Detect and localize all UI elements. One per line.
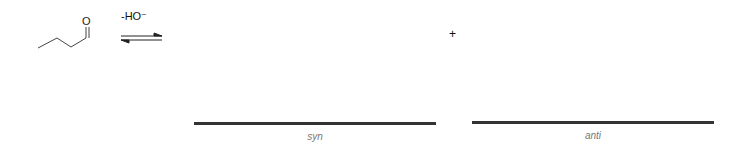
plus-sign: + [449,27,456,41]
equilibrium-arrow-icon [121,33,162,43]
anti-answer-line [472,121,714,124]
syn-answer-line [194,122,436,125]
syn-caption: syn [194,131,436,142]
anti-caption: anti [472,130,714,141]
reagent-label: -HO⁻ [121,10,147,23]
butanal-bonds [38,27,89,48]
oxygen-atom-label: O [82,15,91,27]
